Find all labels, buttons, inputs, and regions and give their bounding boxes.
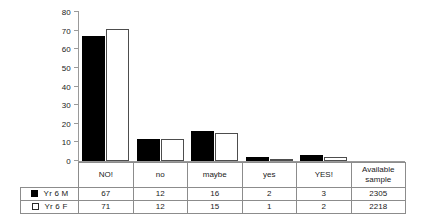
- bar-yr6f-yes-exclaim[interactable]: [324, 157, 347, 161]
- bar-yr6m-yes-exclaim[interactable]: [300, 155, 323, 161]
- table-row: Yr 6 F 71 12 15 1 2 2218: [21, 201, 406, 214]
- table-header-maybe: maybe: [188, 163, 243, 188]
- legend-item-yr6f[interactable]: Yr 6 F: [21, 201, 79, 214]
- bar-group-yes: [242, 12, 297, 161]
- table-header-yes: yes: [242, 163, 297, 188]
- cell-yr6m-yes-exclaim: 3: [297, 188, 352, 201]
- cell-yr6f-maybe: 15: [188, 201, 243, 214]
- legend-swatch-hollow-icon: [32, 203, 39, 210]
- legend-swatch-filled-icon: [31, 190, 38, 197]
- y-axis-tick-60: 60: [0, 44, 78, 55]
- legend-label-yr6m: Yr 6 M: [44, 189, 69, 198]
- y-axis-tick-80: 80: [0, 7, 78, 18]
- table-header-no-exclaim: NO!: [79, 163, 134, 188]
- cell-yr6m-maybe: 16: [188, 188, 243, 201]
- bar-yr6f-no-exclaim[interactable]: [106, 29, 129, 161]
- y-axis-tick-30: 30: [0, 100, 78, 111]
- available-sample-line1: Available: [352, 165, 406, 175]
- bar-yr6f-yes[interactable]: [270, 159, 293, 161]
- table-row: Yr 6 M 67 12 16 2 3 2305: [21, 188, 406, 201]
- bar-yr6f-maybe[interactable]: [215, 133, 238, 161]
- bar-yr6m-yes[interactable]: [246, 157, 269, 161]
- legend-label-yr6f: Yr 6 F: [45, 202, 68, 211]
- table-header-available-sample: Available sample: [351, 163, 406, 188]
- y-axis-tick-70: 70: [0, 26, 78, 37]
- bar-yr6m-no-exclaim[interactable]: [82, 36, 105, 161]
- table-header-no: no: [133, 163, 188, 188]
- cell-yr6m-available-sample: 2305: [351, 188, 406, 201]
- cell-yr6f-no: 12: [133, 201, 188, 214]
- cell-yr6m-yes: 2: [242, 188, 297, 201]
- y-axis-tick-10: 10: [0, 137, 78, 148]
- chart-figure: 80 70 60 50 40 30 20 10 0: [0, 0, 427, 221]
- bar-group-no: [133, 12, 188, 161]
- table-header-spacer: [21, 163, 79, 188]
- data-table: NO! no maybe yes YES! Available sample Y…: [20, 162, 406, 214]
- bar-yr6m-no[interactable]: [137, 139, 160, 161]
- cell-yr6f-no-exclaim: 71: [79, 201, 134, 214]
- bar-yr6m-maybe[interactable]: [191, 131, 214, 161]
- y-axis-tick-20: 20: [0, 119, 78, 130]
- bar-group-yes-exclaim: [296, 12, 351, 161]
- table-header-row: NO! no maybe yes YES! Available sample: [21, 163, 406, 188]
- table-header-yes-exclaim: YES!: [297, 163, 352, 188]
- bar-group-maybe: [187, 12, 242, 161]
- cell-yr6f-available-sample: 2218: [351, 201, 406, 214]
- cell-yr6m-no-exclaim: 67: [79, 188, 134, 201]
- cell-yr6m-no: 12: [133, 188, 188, 201]
- bar-group-no-exclaim: [78, 12, 133, 161]
- data-table-wrapper: NO! no maybe yes YES! Available sample Y…: [20, 162, 405, 214]
- bar-yr6f-no[interactable]: [161, 139, 184, 161]
- bars-layer: [78, 12, 405, 161]
- cell-yr6f-yes-exclaim: 2: [297, 201, 352, 214]
- cell-yr6f-yes: 1: [242, 201, 297, 214]
- legend-item-yr6m[interactable]: Yr 6 M: [21, 188, 79, 201]
- y-axis-tick-50: 50: [0, 63, 78, 74]
- plot-area: 80 70 60 50 40 30 20 10 0: [0, 0, 427, 162]
- available-sample-line2: sample: [352, 175, 406, 185]
- y-axis-tick-40: 40: [0, 82, 78, 93]
